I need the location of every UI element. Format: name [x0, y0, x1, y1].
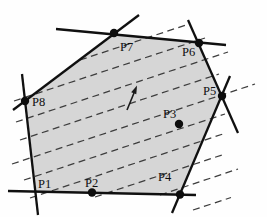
sweep-dashed-line-10 [193, 198, 231, 211]
point-label-p2: P2 [85, 176, 98, 190]
point-dot-p4 [176, 190, 184, 198]
point-label-p3: P3 [163, 107, 176, 121]
point-label-p6: P6 [182, 45, 195, 59]
point-label-p8: P8 [32, 95, 45, 109]
point-dot-p6 [195, 39, 203, 47]
figure-canvas: P1P2P3P4P5P6P7P8 [0, 0, 267, 217]
point-label-p1: P1 [38, 177, 51, 191]
point-dot-p7 [110, 29, 118, 37]
point-dot-p5 [218, 92, 226, 100]
point-label-p5: P5 [203, 84, 216, 98]
point-label-p4: P4 [158, 170, 172, 184]
point-label-p7: P7 [120, 40, 133, 54]
point-dot-p3 [175, 120, 183, 128]
sweep-polygon-figure: P1P2P3P4P5P6P7P8 [0, 0, 267, 217]
point-dot-p8 [21, 97, 29, 105]
